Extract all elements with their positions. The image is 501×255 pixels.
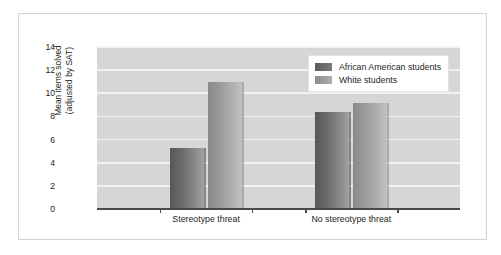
x-axis-line [97,208,460,210]
y-axis-tick-label: 6 [29,135,55,145]
chart-legend: African American students White students [308,55,449,92]
x-axis-tick [305,209,306,213]
bar [353,103,387,209]
legend-label-african-american-students: African American students [339,62,441,72]
gridline [97,46,460,48]
gridline [97,162,460,164]
x-axis-tick [252,209,253,213]
legend-swatch-white-students [315,76,332,84]
gridline [97,92,460,94]
gridline [97,139,460,141]
y-axis-tick-label: 0 [29,204,55,214]
y-axis-tick-label: 4 [29,158,55,168]
legend-item-white-students: White students [315,74,441,86]
x-axis-tick [160,209,161,213]
gridline [97,116,460,118]
y-axis-tick-label: 8 [29,111,55,121]
x-axis-category-label: No stereotype threat [311,214,391,224]
x-axis-tick [397,209,398,213]
gridline [97,185,460,187]
y-axis-tick-label: 2 [29,181,55,191]
x-axis-category-label: Stereotype threat [172,214,239,224]
legend-item-african-american-students: African American students [315,61,441,73]
legend-label-white-students: White students [339,75,397,85]
y-axis-tick-label: 10 [29,88,55,98]
y-axis-tick-label: 14 [29,42,55,52]
bar-chart: Mean items solved (adjusted by SAT) 1412… [19,14,488,241]
y-axis-tick-label: 12 [29,65,55,75]
bar [208,82,242,209]
figure-frame: Mean items solved (adjusted by SAT) 1412… [18,13,487,240]
legend-swatch-african-american-students [315,63,332,71]
bar [170,148,204,209]
bar [315,112,349,209]
